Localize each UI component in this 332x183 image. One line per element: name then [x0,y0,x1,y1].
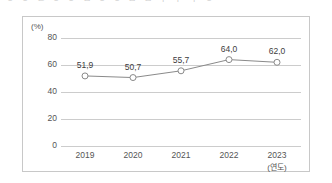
clipped-heading-text: ㅇ ㅇ ㄴ ㅇ ㅇ ㅁ ㅇ ㅇ ㅁ ㅁ ㅣ ㅏ ㅣ ㅇ [6,0,326,2]
data-point-marker[interactable] [274,59,280,65]
data-point-label: 55,7 [164,55,198,65]
data-point-marker[interactable] [82,73,88,79]
data-point-label: 62,0 [260,46,294,56]
data-point-label: 50,7 [116,62,150,72]
data-point-marker[interactable] [178,68,184,74]
y-axis-tick-label: 20 [31,113,57,123]
y-axis-unit-label: (%) [31,22,43,31]
x-axis-tick-label: 2021 [161,150,201,160]
x-axis-tick-label: 2023 [257,150,297,160]
data-point-label: 51,9 [68,60,102,70]
data-point-marker[interactable] [226,57,232,63]
x-axis-tick-label: 2022 [209,150,249,160]
x-axis-unit-label: (연도) [257,161,297,172]
line-chart-plot: 020406080(%)20192020202120222023(연도)51,9… [23,17,311,173]
y-axis-tick-label: 0 [31,140,57,150]
data-point-marker[interactable] [130,75,136,81]
y-axis-tick-label: 80 [31,32,57,42]
y-axis-tick-label: 60 [31,59,57,69]
y-axis-tick-label: 40 [31,86,57,96]
x-axis-tick-label: 2019 [65,150,105,160]
chart-frame: 020406080(%)20192020202120222023(연도)51,9… [22,16,310,172]
data-point-label: 64,0 [212,44,246,54]
x-axis-tick-label: 2020 [113,150,153,160]
